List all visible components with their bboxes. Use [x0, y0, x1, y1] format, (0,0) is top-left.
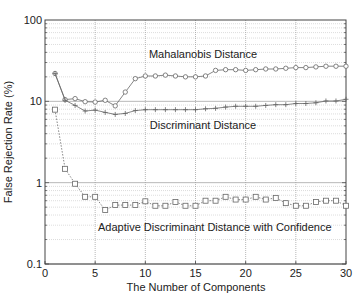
marker-plus	[323, 98, 328, 103]
marker-plus	[203, 106, 208, 111]
marker-diamond	[93, 100, 97, 104]
marker-plus	[123, 111, 128, 116]
marker-plus	[333, 98, 338, 103]
marker-diamond	[254, 67, 258, 71]
marker-square	[323, 198, 328, 203]
annotation-adaptive: Adaptive Discriminant Distance with Conf…	[98, 221, 332, 233]
y-tick-label: 0.1	[27, 258, 42, 270]
marker-square	[243, 197, 248, 202]
marker-square	[103, 208, 108, 213]
marker-diamond	[83, 99, 87, 103]
marker-square	[213, 198, 218, 203]
marker-square	[123, 203, 128, 208]
marker-square	[303, 203, 308, 208]
marker-square	[233, 197, 238, 202]
y-tick-label: 10	[30, 95, 42, 107]
marker-diamond	[304, 65, 308, 69]
marker-square	[223, 194, 228, 199]
marker-plus	[143, 107, 148, 112]
marker-square	[63, 166, 68, 171]
marker-plus	[243, 104, 248, 109]
marker-plus	[103, 110, 108, 115]
marker-diamond	[73, 96, 77, 100]
marker-diamond	[264, 67, 268, 71]
marker-plus	[283, 102, 288, 107]
marker-diamond	[123, 90, 127, 94]
marker-plus	[193, 107, 198, 112]
marker-diamond	[284, 66, 288, 70]
marker-square	[73, 181, 78, 186]
marker-plus	[273, 102, 278, 107]
marker-plus	[93, 108, 98, 113]
marker-plus	[213, 106, 218, 111]
marker-diamond	[314, 65, 318, 69]
marker-diamond	[243, 68, 247, 72]
marker-plus	[133, 108, 138, 113]
marker-diamond	[183, 75, 187, 79]
marker-plus	[163, 107, 168, 112]
marker-square	[193, 203, 198, 208]
marker-square	[113, 203, 118, 208]
marker-plus	[173, 107, 178, 112]
marker-square	[344, 203, 349, 208]
data-series	[53, 64, 349, 213]
marker-square	[283, 201, 288, 206]
marker-diamond	[344, 64, 348, 68]
marker-square	[183, 203, 188, 208]
marker-square	[273, 195, 278, 200]
marker-diamond	[334, 64, 338, 68]
marker-diamond	[324, 64, 328, 68]
marker-square	[293, 203, 298, 208]
marker-diamond	[153, 74, 157, 78]
marker-plus	[73, 103, 78, 108]
x-tick-label: 15	[189, 267, 201, 279]
marker-square	[333, 198, 338, 203]
marker-diamond	[193, 75, 197, 79]
y-tick-label: 100	[24, 14, 42, 26]
marker-square	[313, 199, 318, 204]
marker-diamond	[294, 65, 298, 69]
marker-diamond	[274, 67, 278, 71]
annotation-mahalanobis: Mahalanobis Distance	[149, 48, 257, 60]
marker-diamond	[143, 74, 147, 78]
marker-diamond	[103, 98, 107, 102]
x-tick-label: 30	[340, 267, 352, 279]
marker-diamond	[233, 67, 237, 71]
marker-diamond	[113, 104, 117, 108]
marker-square	[163, 203, 168, 208]
y-tick-label: 1	[36, 177, 42, 189]
marker-square	[133, 203, 138, 208]
marker-square	[83, 194, 88, 199]
x-tick-label: 10	[139, 267, 151, 279]
marker-diamond	[173, 74, 177, 78]
annotation-discriminant: Discriminant Distance	[150, 119, 256, 131]
x-tick-label: 25	[290, 267, 302, 279]
marker-square	[173, 199, 178, 204]
marker-square	[203, 198, 208, 203]
marker-diamond	[163, 73, 167, 77]
marker-plus	[233, 104, 238, 109]
x-tick-label: 20	[240, 267, 252, 279]
marker-plus	[263, 103, 268, 108]
x-tick-label: 0	[42, 267, 48, 279]
series-discriminant	[53, 71, 349, 117]
marker-diamond	[133, 76, 137, 80]
marker-diamond	[203, 74, 207, 78]
x-tick-label: 5	[92, 267, 98, 279]
y-axis-label: False Rejection Rate (%)	[2, 81, 14, 203]
marker-diamond	[223, 67, 227, 71]
marker-plus	[153, 107, 158, 112]
marker-square	[253, 194, 258, 199]
marker-square	[143, 199, 148, 204]
marker-plus	[223, 105, 228, 110]
chart-canvas: 0510152025300.1110100 Mahalanobis Distan…	[0, 0, 363, 302]
marker-diamond	[213, 68, 217, 72]
marker-square	[263, 197, 268, 202]
marker-plus	[253, 104, 258, 109]
marker-plus	[113, 112, 118, 117]
marker-square	[53, 107, 58, 112]
marker-square	[93, 194, 98, 199]
x-axis-label: The Number of Components	[127, 281, 266, 293]
marker-square	[153, 203, 158, 208]
marker-plus	[183, 107, 188, 112]
